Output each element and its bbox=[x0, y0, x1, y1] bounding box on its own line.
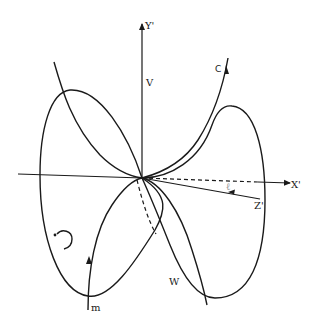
x-axis-label: X' bbox=[291, 179, 301, 190]
m-label: m bbox=[91, 302, 101, 313]
rotation-arrow-icon bbox=[57, 231, 72, 249]
x-axis-right bbox=[258, 182, 290, 183]
diagram-canvas: Y' V C X' Z' ℓ W m bbox=[0, 0, 315, 328]
y-axis-label: Y' bbox=[144, 20, 154, 31]
w-label: W bbox=[169, 276, 180, 287]
c-label: C bbox=[215, 64, 221, 74]
z-axis-label: Z' bbox=[254, 200, 264, 211]
x-axis-left bbox=[18, 174, 142, 178]
right-lobe-curve bbox=[142, 106, 265, 298]
left-lobe-curve bbox=[40, 90, 163, 296]
m-curve-arrow-icon bbox=[86, 256, 92, 264]
c-curve bbox=[88, 58, 228, 310]
rotation-center-dot bbox=[54, 234, 57, 237]
v-label: V bbox=[145, 77, 154, 88]
ell-label: ℓ bbox=[226, 181, 231, 192]
